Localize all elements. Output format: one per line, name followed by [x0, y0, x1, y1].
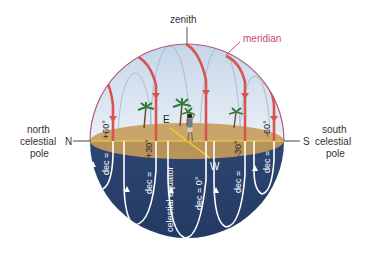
celestial-equator-label: celestial equator: [165, 166, 175, 232]
meridian-label: meridian: [243, 33, 281, 44]
east-label: E: [163, 114, 170, 125]
svg-text:celestial: celestial: [20, 136, 56, 147]
north-letter: N: [65, 136, 72, 147]
dec-plus60-label: +60°: [101, 120, 111, 139]
south-letter: S: [303, 136, 310, 147]
svg-text:north: north: [27, 124, 50, 135]
west-label: W: [210, 161, 220, 172]
svg-text:pole: pole: [326, 148, 345, 159]
south-celestial-pole-label: S south celestial pole: [284, 124, 351, 159]
dec-minus60-label: -60°: [262, 120, 272, 137]
svg-text:celestial: celestial: [315, 136, 351, 147]
dec-plus30-eq-label: dec =: [144, 172, 154, 194]
celestial-sphere-diagram: +60° dec = +30° dec = celestial equator …: [0, 0, 372, 256]
dec-minus60-eq-label: dec =: [262, 151, 272, 173]
svg-text:pole: pole: [30, 148, 49, 159]
dec-minus30-label: -30°: [233, 140, 243, 157]
horizon-plane: [90, 123, 284, 159]
dec-plus30-label: +30°: [144, 139, 154, 158]
zenith-label: zenith: [170, 14, 197, 25]
meridian-pointer: [226, 42, 240, 55]
dec-minus30-eq-label: dec =: [233, 171, 243, 193]
svg-text:south: south: [322, 124, 346, 135]
north-celestial-pole-label: north celestial pole N: [20, 124, 91, 159]
dec-plus60-eq-label: dec =: [101, 153, 111, 175]
dec-zero-label: dec = 0°: [194, 176, 204, 210]
